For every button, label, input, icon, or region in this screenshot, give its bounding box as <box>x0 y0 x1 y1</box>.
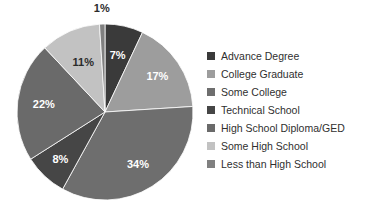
legend-item-label: High School Diploma/GED <box>221 122 345 134</box>
legend-item[interactable]: High School Diploma/GED <box>207 119 370 137</box>
pie-plot-area: 7%17%34%8%22%11%1% <box>0 0 210 215</box>
pie-slice-label: 22% <box>33 98 55 110</box>
legend-item[interactable]: College Graduate <box>207 65 370 83</box>
legend-item[interactable]: Less than High School <box>207 155 370 173</box>
pie-chart-figure: 7%17%34%8%22%11%1% Advance DegreeCollege… <box>0 0 370 215</box>
pie-slice-label: 7% <box>110 49 126 61</box>
legend-color-swatch <box>207 124 215 132</box>
pie-slice-label: 8% <box>52 153 68 165</box>
legend-color-swatch <box>207 142 215 150</box>
legend-item[interactable]: Some College <box>207 83 370 101</box>
legend-item-label: Some High School <box>221 140 308 152</box>
legend-item[interactable]: Advance Degree <box>207 47 370 65</box>
pie-slice-label: 11% <box>73 56 95 68</box>
chart-legend: Advance DegreeCollege GraduateSome Colle… <box>207 47 370 173</box>
pie-slice-label: 1% <box>94 2 110 14</box>
legend-color-swatch <box>207 106 215 114</box>
legend-color-swatch <box>207 70 215 78</box>
legend-item[interactable]: Some High School <box>207 137 370 155</box>
pie-slice-label: 17% <box>146 70 168 82</box>
legend-color-swatch <box>207 160 215 168</box>
legend-item-label: Less than High School <box>221 158 326 170</box>
legend-item[interactable]: Technical School <box>207 101 370 119</box>
legend-color-swatch <box>207 88 215 96</box>
legend-color-swatch <box>207 52 215 60</box>
legend-item-label: Advance Degree <box>221 50 299 62</box>
legend-item-label: Some College <box>221 86 287 98</box>
pie-svg: 7%17%34%8%22%11%1% <box>0 0 210 215</box>
pie-slices-group <box>17 24 193 200</box>
legend-item-label: Technical School <box>221 104 300 116</box>
pie-slice-label: 34% <box>127 158 149 170</box>
legend-item-label: College Graduate <box>221 68 303 80</box>
